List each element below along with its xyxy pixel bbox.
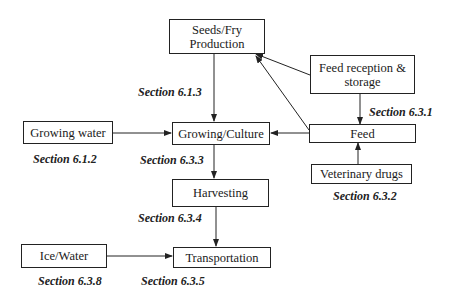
- section-label-6-3-4: Section 6.3.4: [138, 211, 202, 226]
- node-harvesting: Harvesting: [172, 179, 269, 207]
- node-label: Growing/Culture: [178, 127, 263, 141]
- section-label-6-1-2: Section 6.1.2: [33, 152, 97, 167]
- node-growing-water: Growing water: [23, 121, 113, 144]
- section-label-6-3-8: Section 6.3.8: [38, 274, 102, 289]
- node-veterinary-drugs: Veterinary drugs: [311, 164, 412, 184]
- section-label-6-3-2: Section 6.3.2: [333, 189, 397, 204]
- section-label-6-3-1: Section 6.3.1: [369, 105, 433, 120]
- section-label-6-1-3: Section 6.1.3: [138, 85, 202, 100]
- node-label: Feed reception & storage: [311, 61, 414, 89]
- section-label-6-3-3: Section 6.3.3: [140, 153, 204, 168]
- node-seeds-fry-production: Seeds/Fry Production: [169, 19, 265, 54]
- node-label: Growing water: [30, 126, 105, 140]
- node-transportation: Transportation: [173, 247, 271, 268]
- node-feed-reception-storage: Feed reception & storage: [310, 55, 415, 94]
- node-growing-culture: Growing/Culture: [172, 122, 270, 145]
- node-label: Harvesting: [193, 186, 248, 200]
- node-ice-water: Ice/Water: [21, 244, 107, 268]
- node-feed: Feed: [309, 124, 416, 143]
- node-label: Veterinary drugs: [320, 167, 403, 181]
- node-label: Ice/Water: [40, 249, 88, 263]
- node-label: Feed: [350, 127, 374, 141]
- node-label: Transportation: [185, 251, 258, 265]
- node-label: Seeds/Fry Production: [170, 23, 264, 51]
- section-label-6-3-5: Section 6.3.5: [141, 274, 205, 289]
